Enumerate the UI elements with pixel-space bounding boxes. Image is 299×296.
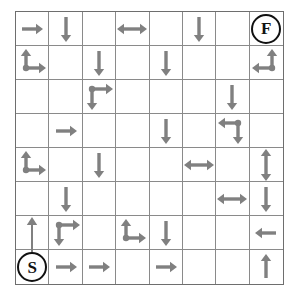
up-down-double-arrow-icon	[250, 148, 283, 181]
down-arrow-icon	[183, 12, 215, 45]
grid-cell-r4-c5[interactable]	[150, 114, 183, 148]
grid-cell-empty-r1-c5[interactable]	[150, 12, 183, 46]
down-arrow-icon	[150, 114, 182, 147]
grid-cell-r2-c1[interactable]	[16, 46, 49, 80]
grid-cell-r5-c3[interactable]	[83, 148, 116, 182]
grid-cell-r2-c5[interactable]	[150, 46, 183, 80]
grid-cell-r8-c3[interactable]	[83, 250, 116, 284]
up-and-right-branch-arrow-icon	[116, 216, 148, 249]
grid-cell-empty-r2-c2[interactable]	[49, 46, 82, 80]
grid-cell-empty-r4-c8[interactable]	[250, 114, 283, 148]
grid-cell-r7-c4[interactable]	[116, 216, 149, 250]
grid-cell-r1-c8[interactable]: F	[250, 12, 283, 46]
long-up-arrow-icon	[16, 216, 48, 249]
grid-cell-r6-c7[interactable]	[216, 182, 249, 216]
left-and-down-branch-arrow-icon	[216, 114, 248, 147]
grid-cell-empty-r3-c8[interactable]	[250, 80, 283, 114]
up-and-right-branch-arrow-icon	[16, 148, 48, 181]
grid-cell-r5-c6[interactable]	[183, 148, 216, 182]
grid-cell-empty-r6-c4[interactable]	[116, 182, 149, 216]
left-right-double-arrow-icon	[116, 12, 148, 45]
grid-cell-empty-r2-c4[interactable]	[116, 46, 149, 80]
grid-cell-r4-c2[interactable]	[49, 114, 82, 148]
grid-cell-r3-c3[interactable]	[83, 80, 116, 114]
grid-cell-empty-r6-c3[interactable]	[83, 182, 116, 216]
down-arrow-icon	[49, 182, 81, 215]
grid-cell-r8-c5[interactable]	[150, 250, 183, 284]
grid-cell-empty-r8-c6[interactable]	[183, 250, 216, 284]
grid-cell-empty-r8-c7[interactable]	[216, 250, 249, 284]
down-and-right-branch-arrow-icon	[49, 216, 81, 249]
grid-cell-empty-r3-c6[interactable]	[183, 80, 216, 114]
left-right-double-arrow-icon	[183, 148, 215, 181]
down-arrow-icon	[250, 182, 283, 215]
grid-cell-empty-r4-c1[interactable]	[16, 114, 49, 148]
start-marker: S	[17, 252, 47, 282]
down-arrow-icon	[49, 12, 81, 45]
grid-cell-empty-r6-c1[interactable]	[16, 182, 49, 216]
grid-cell-empty-r5-c5[interactable]	[150, 148, 183, 182]
down-arrow-icon	[150, 46, 182, 79]
grid-cell-empty-r4-c6[interactable]	[183, 114, 216, 148]
down-arrow-icon	[83, 46, 115, 79]
grid-cell-empty-r3-c2[interactable]	[49, 80, 82, 114]
down-arrow-icon	[150, 216, 182, 249]
grid-cell-r6-c8[interactable]	[250, 182, 283, 216]
grid-cell-r1-c4[interactable]	[116, 12, 149, 46]
grid-cell-empty-r5-c4[interactable]	[116, 148, 149, 182]
grid-cell-empty-r3-c4[interactable]	[116, 80, 149, 114]
up-and-left-branch-arrow-icon	[250, 46, 283, 79]
left-right-double-arrow-icon	[216, 182, 248, 215]
grid-cell-empty-r3-c1[interactable]	[16, 80, 49, 114]
right-arrow-icon	[150, 250, 182, 284]
grid-cell-r1-c2[interactable]	[49, 12, 82, 46]
grid-cell-empty-r5-c7[interactable]	[216, 148, 249, 182]
grid-cell-r7-c1[interactable]	[16, 216, 49, 250]
down-arrow-icon	[83, 148, 115, 181]
grid-cell-empty-r1-c3[interactable]	[83, 12, 116, 46]
up-and-right-branch-arrow-icon	[16, 46, 48, 79]
right-arrow-icon	[83, 250, 115, 284]
grid-cell-empty-r7-c7[interactable]	[216, 216, 249, 250]
down-and-right-branch-arrow-icon	[83, 80, 115, 113]
grid-cell-r1-c1[interactable]	[16, 12, 49, 46]
grid-cell-empty-r7-c3[interactable]	[83, 216, 116, 250]
grid-cell-r8-c2[interactable]	[49, 250, 82, 284]
grid-cell-r5-c1[interactable]	[16, 148, 49, 182]
down-arrow-icon	[216, 80, 248, 113]
grid-cell-r3-c7[interactable]	[216, 80, 249, 114]
grid-cell-empty-r1-c7[interactable]	[216, 12, 249, 46]
left-arrow-icon	[250, 216, 283, 249]
arrow-maze-grid: FS	[15, 11, 284, 285]
grid-cell-empty-r6-c5[interactable]	[150, 182, 183, 216]
grid-cell-r8-c1[interactable]: S	[16, 250, 49, 284]
grid-cell-r6-c2[interactable]	[49, 182, 82, 216]
up-arrow-icon	[250, 250, 283, 284]
grid-cell-empty-r2-c7[interactable]	[216, 46, 249, 80]
grid-cell-r2-c3[interactable]	[83, 46, 116, 80]
grid-cell-r7-c5[interactable]	[150, 216, 183, 250]
grid-cell-empty-r7-c6[interactable]	[183, 216, 216, 250]
right-arrow-icon	[49, 250, 81, 284]
grid-cell-r4-c7[interactable]	[216, 114, 249, 148]
grid-cell-empty-r4-c3[interactable]	[83, 114, 116, 148]
grid-cell-empty-r8-c4[interactable]	[116, 250, 149, 284]
right-arrow-icon	[49, 114, 81, 147]
grid-cell-r5-c8[interactable]	[250, 148, 283, 182]
right-arrow-icon	[16, 12, 48, 45]
grid-cell-r1-c6[interactable]	[183, 12, 216, 46]
grid-cell-empty-r2-c6[interactable]	[183, 46, 216, 80]
grid-cell-empty-r5-c2[interactable]	[49, 148, 82, 182]
grid-cell-empty-r4-c4[interactable]	[116, 114, 149, 148]
grid-cell-r7-c2[interactable]	[49, 216, 82, 250]
puzzle-board: FS	[0, 0, 299, 296]
grid-cell-r8-c8[interactable]	[250, 250, 283, 284]
grid-cell-r2-c8[interactable]	[250, 46, 283, 80]
finish-marker: F	[251, 14, 281, 44]
grid-cell-empty-r3-c5[interactable]	[150, 80, 183, 114]
grid-cell-empty-r6-c6[interactable]	[183, 182, 216, 216]
grid-cell-r7-c8[interactable]	[250, 216, 283, 250]
